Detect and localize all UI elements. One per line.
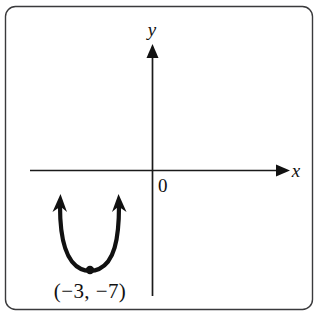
figure-canvas: x y 0 (−3, −7) [0, 0, 325, 320]
vertex-coordinate-label: (−3, −7) [54, 279, 126, 303]
parabola-figure: x y 0 (−3, −7) [0, 0, 325, 320]
vertex-point [86, 266, 94, 274]
y-axis-label: y [146, 19, 157, 40]
x-axis-label: x [291, 160, 301, 181]
figure-border [6, 7, 313, 310]
origin-label: 0 [158, 175, 168, 196]
